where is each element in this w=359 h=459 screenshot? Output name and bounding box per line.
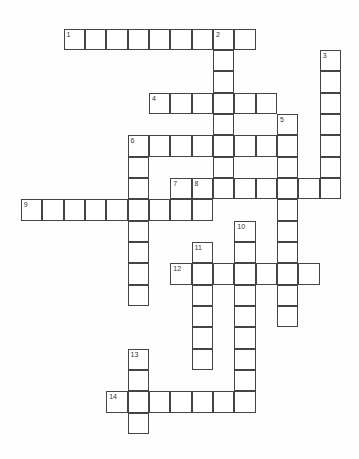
crossword-cell[interactable]: [234, 93, 255, 114]
clue-number: 10: [237, 223, 245, 230]
crossword-cell[interactable]: [149, 391, 170, 412]
crossword-cell[interactable]: [42, 199, 63, 220]
crossword-cell[interactable]: [128, 242, 149, 263]
crossword-cell[interactable]: [213, 391, 234, 412]
crossword-cell[interactable]: [234, 391, 255, 412]
crossword-cell[interactable]: [170, 93, 191, 114]
clue-number: 13: [131, 351, 139, 358]
crossword-cell[interactable]: [192, 93, 213, 114]
crossword-cell[interactable]: [277, 178, 298, 199]
crossword-cell[interactable]: [213, 263, 234, 284]
crossword-cell[interactable]: [128, 285, 149, 306]
clue-number: 6: [131, 137, 135, 144]
crossword-cell[interactable]: [213, 114, 234, 135]
crossword-cell[interactable]: [128, 178, 149, 199]
crossword-cell[interactable]: [128, 413, 149, 434]
crossword-cell[interactable]: [128, 157, 149, 178]
crossword-cell[interactable]: 9: [21, 199, 42, 220]
crossword-cell[interactable]: [256, 263, 277, 284]
crossword-cell[interactable]: [320, 135, 341, 156]
crossword-cell[interactable]: 8: [192, 178, 213, 199]
crossword-cell[interactable]: [192, 327, 213, 348]
crossword-cell[interactable]: [64, 199, 85, 220]
crossword-cell[interactable]: [234, 135, 255, 156]
crossword-cell[interactable]: [277, 263, 298, 284]
crossword-cell[interactable]: 7: [170, 178, 191, 199]
crossword-cell[interactable]: 1: [64, 29, 85, 50]
crossword-cell[interactable]: [170, 135, 191, 156]
crossword-cell[interactable]: [234, 178, 255, 199]
crossword-cell[interactable]: [234, 370, 255, 391]
crossword-cell[interactable]: 4: [149, 93, 170, 114]
crossword-cell[interactable]: [234, 29, 255, 50]
crossword-cell[interactable]: [234, 263, 255, 284]
crossword-cell[interactable]: [213, 178, 234, 199]
clue-number: 9: [24, 201, 28, 208]
crossword-cell[interactable]: [320, 178, 341, 199]
crossword-cell[interactable]: [213, 93, 234, 114]
crossword-cell[interactable]: [128, 29, 149, 50]
crossword-cell[interactable]: [320, 93, 341, 114]
crossword-cell[interactable]: [106, 29, 127, 50]
crossword-cell[interactable]: [320, 114, 341, 135]
crossword-cell[interactable]: [256, 178, 277, 199]
crossword-cell[interactable]: [234, 327, 255, 348]
clue-number: 14: [109, 393, 117, 400]
crossword-cell[interactable]: [85, 199, 106, 220]
crossword-cell[interactable]: [320, 71, 341, 92]
crossword-cell[interactable]: [277, 135, 298, 156]
crossword-cell[interactable]: [277, 199, 298, 220]
crossword-cell[interactable]: [149, 199, 170, 220]
clue-number: 8: [195, 180, 199, 187]
crossword-cell[interactable]: [277, 285, 298, 306]
crossword-cell[interactable]: [170, 29, 191, 50]
crossword-cell[interactable]: [149, 29, 170, 50]
crossword-cell[interactable]: 13: [128, 349, 149, 370]
crossword-cell[interactable]: [192, 199, 213, 220]
crossword-cell[interactable]: [192, 285, 213, 306]
crossword-cell[interactable]: [256, 93, 277, 114]
crossword-cell[interactable]: [170, 199, 191, 220]
crossword-cell[interactable]: [320, 157, 341, 178]
crossword-cell[interactable]: [277, 221, 298, 242]
crossword-cell[interactable]: [128, 370, 149, 391]
crossword-cell[interactable]: 12: [170, 263, 191, 284]
crossword-cell[interactable]: [192, 391, 213, 412]
crossword-cell[interactable]: 14: [106, 391, 127, 412]
clue-number: 12: [173, 265, 181, 272]
crossword-cell[interactable]: [192, 135, 213, 156]
crossword-cell[interactable]: [128, 391, 149, 412]
crossword-cell[interactable]: [128, 199, 149, 220]
crossword-cell[interactable]: [128, 221, 149, 242]
crossword-cell[interactable]: [213, 157, 234, 178]
crossword-cell[interactable]: [234, 285, 255, 306]
crossword-cell[interactable]: [213, 71, 234, 92]
crossword-cell[interactable]: [149, 135, 170, 156]
crossword-cell[interactable]: [106, 199, 127, 220]
crossword-cell[interactable]: 3: [320, 50, 341, 71]
crossword-cell[interactable]: 2: [213, 29, 234, 50]
crossword-cell[interactable]: [128, 263, 149, 284]
crossword-cell[interactable]: [277, 157, 298, 178]
crossword-cell[interactable]: [192, 306, 213, 327]
crossword-cell[interactable]: [192, 29, 213, 50]
crossword-cell[interactable]: [277, 242, 298, 263]
crossword-cell[interactable]: [192, 349, 213, 370]
crossword-cell[interactable]: [213, 135, 234, 156]
crossword-cell[interactable]: [170, 391, 191, 412]
crossword-cell[interactable]: 10: [234, 221, 255, 242]
crossword-cell[interactable]: [298, 263, 319, 284]
crossword-cell[interactable]: 5: [277, 114, 298, 135]
crossword-cell[interactable]: [85, 29, 106, 50]
crossword-cell[interactable]: [277, 306, 298, 327]
crossword-cell[interactable]: [298, 178, 319, 199]
crossword-cell[interactable]: [256, 135, 277, 156]
crossword-cell[interactable]: [213, 50, 234, 71]
crossword-cell[interactable]: [192, 263, 213, 284]
clue-number: 3: [323, 52, 327, 59]
crossword-cell[interactable]: 6: [128, 135, 149, 156]
crossword-cell[interactable]: [234, 349, 255, 370]
crossword-cell[interactable]: 11: [192, 242, 213, 263]
crossword-cell[interactable]: [234, 242, 255, 263]
crossword-cell[interactable]: [234, 306, 255, 327]
